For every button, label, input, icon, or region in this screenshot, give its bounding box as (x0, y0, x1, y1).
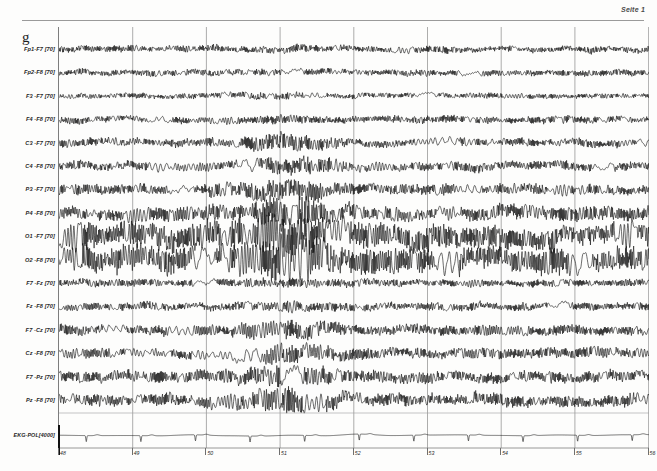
time-tick-label-53: 53 (429, 450, 435, 456)
channel-label-f4-f8: F4 -F8 [70] (26, 116, 55, 122)
time-tick-mark-49 (132, 448, 133, 455)
channel-label-c3-f7: C3 -F7 [70] (25, 140, 55, 146)
time-axis: 484950515253545556 (58, 448, 648, 470)
channel-label-o1-f7: O1 -F7 [70] (25, 233, 55, 239)
page-header: Seite 1 (0, 0, 657, 24)
channel-label-c4-f8: C4 -F8 [70] (25, 163, 55, 169)
channel-label-f7-fz: F7 -Fz [70] (26, 280, 55, 286)
time-tick-mark-48 (58, 448, 59, 455)
channel-label-pz-f8: Pz -F8 [70] (26, 397, 55, 403)
channel-label-f7-pz: F7 -Pz [70] (26, 374, 55, 380)
header-divider (22, 20, 644, 21)
channel-label-p4-f8: P4 -F8 [70] (26, 210, 55, 216)
time-tick-mark-54 (500, 448, 501, 455)
channel-label-column: Fp1-F7 [70]Fp2-F8 [70]F3 -F7 [70]F4 -F8 … (0, 0, 58, 471)
time-tick-label-56: 56 (650, 450, 656, 456)
time-tick-label-52: 52 (355, 450, 361, 456)
time-tick-mark-50 (205, 448, 206, 455)
channel-label-f7-cz: F7 -Cz [70] (26, 327, 55, 333)
time-tick-label-51: 51 (281, 450, 287, 456)
eeg-traces-svg (59, 27, 649, 450)
time-tick-label-49: 49 (134, 450, 140, 456)
channel-label-o2-f8: O2 -F8 [70] (25, 257, 55, 263)
page-number-label: Seite 1 (621, 6, 645, 13)
time-tick-mark-52 (353, 448, 354, 455)
time-tick-mark-55 (574, 448, 575, 455)
time-tick-label-48: 48 (60, 450, 66, 456)
time-tick-mark-56 (648, 448, 649, 455)
time-tick-label-50: 50 (207, 450, 213, 456)
channel-label-p3-f7: P3 -F7 [70] (26, 186, 55, 192)
time-tick-mark-53 (427, 448, 428, 455)
channel-label-cz-f8: Cz -F8 [70] (26, 350, 55, 356)
eeg-page: Seite 1 g Fp1-F7 [70]Fp2-F8 [70]F3 -F7 [… (0, 0, 657, 471)
time-tick-mark-51 (279, 448, 280, 455)
channel-label-fp1-f7: Fp1-F7 [70] (24, 46, 55, 52)
time-tick-label-54: 54 (502, 450, 508, 456)
channel-label-fp2-f8: Fp2-F8 [70] (24, 69, 55, 75)
channel-label-ekg-pol: EKG-POL[4000] (14, 432, 55, 438)
eeg-plot-area[interactable] (58, 27, 648, 450)
channel-label-f3-f7: F3 -F7 [70] (26, 93, 55, 99)
time-tick-label-55: 55 (576, 450, 582, 456)
channel-label-fz-f8: Fz -F8 [70] (26, 303, 55, 309)
